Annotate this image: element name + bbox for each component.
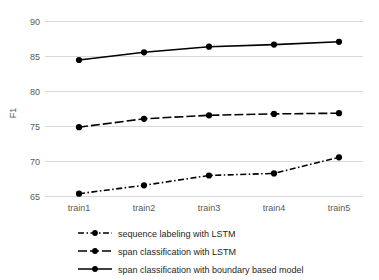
y-axis-title: F1: [8, 108, 18, 119]
data-point[interactable]: [141, 182, 147, 188]
y-tick-label: 80: [30, 87, 40, 97]
series-span-classification-with-boundary-based-model: [76, 39, 342, 63]
data-point[interactable]: [76, 191, 82, 197]
chart-figure: 90 85 80 75 70 65 F1 train1 train2 train…: [0, 0, 379, 280]
legend-label: span classification with boundary based …: [118, 265, 304, 275]
series-sequence-labeling-with-lstm: [76, 154, 342, 197]
data-point[interactable]: [271, 42, 277, 48]
legend-item-span-classification-with-boundary-based-model[interactable]: span classification with boundary based …: [78, 265, 304, 275]
y-tick-label: 70: [30, 157, 40, 167]
y-tick-label: 75: [30, 122, 40, 132]
data-point[interactable]: [336, 39, 342, 45]
x-tick-label: train3: [198, 203, 221, 213]
data-point[interactable]: [206, 112, 212, 118]
y-axis-tick-labels: 90 85 80 75 70 65: [30, 17, 40, 202]
series-layer: [76, 39, 342, 197]
data-point[interactable]: [76, 124, 82, 130]
data-point[interactable]: [141, 116, 147, 122]
data-point[interactable]: [206, 44, 212, 50]
data-point[interactable]: [76, 57, 82, 63]
data-point[interactable]: [336, 110, 342, 116]
x-tick-label: train4: [263, 203, 286, 213]
x-tick-label: train1: [68, 203, 91, 213]
data-point[interactable]: [141, 49, 147, 55]
x-axis-tick-labels: train1 train2 train3 train4 train5: [68, 203, 351, 213]
legend-label: span classification with LSTM: [118, 247, 236, 257]
data-point[interactable]: [206, 172, 212, 178]
legend-marker-icon: [92, 266, 98, 272]
data-point[interactable]: [271, 111, 277, 117]
data-point[interactable]: [336, 154, 342, 160]
legend-label: sequence labeling with LSTM: [118, 229, 236, 239]
legend-item-span-classification-with-lstm[interactable]: span classification with LSTM: [78, 247, 236, 257]
legend-marker-icon: [92, 230, 98, 236]
legend-item-sequence-labeling-with-lstm[interactable]: sequence labeling with LSTM: [78, 229, 236, 239]
data-point[interactable]: [271, 170, 277, 176]
legend-marker-icon: [92, 248, 98, 254]
x-tick-label: train2: [133, 203, 156, 213]
y-tick-label: 85: [30, 52, 40, 62]
y-tick-label: 65: [30, 192, 40, 202]
y-tick-label: 90: [30, 17, 40, 27]
series-span-classification-with-lstm: [76, 110, 342, 130]
line-chart: 90 85 80 75 70 65 F1 train1 train2 train…: [0, 0, 379, 280]
x-tick-label: train5: [328, 203, 351, 213]
chart-legend: sequence labeling with LSTM span classif…: [78, 229, 304, 275]
